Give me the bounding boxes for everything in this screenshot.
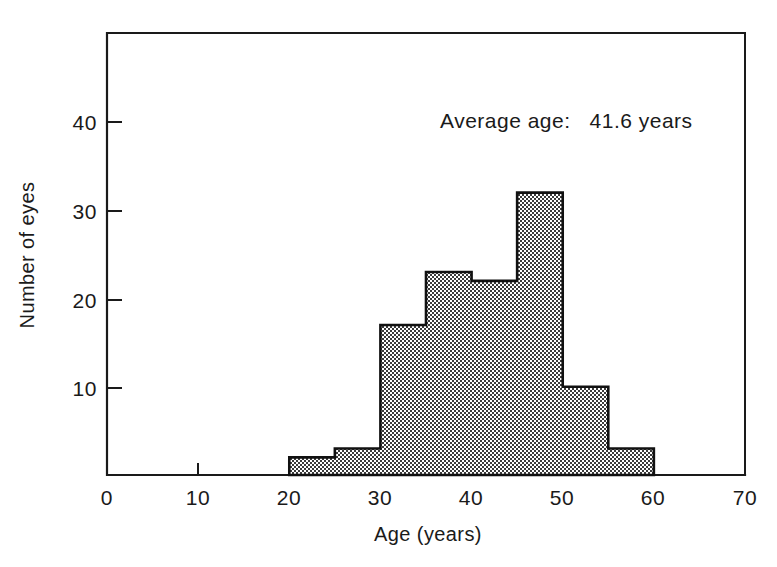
histogram-bars: [289, 193, 654, 475]
x-axis-title: Age (years): [374, 523, 482, 545]
y-tick-label-30: 30: [72, 200, 97, 223]
x-tick-label-50: 50: [550, 486, 575, 509]
histogram-series: [289, 193, 654, 475]
x-tick-label-20: 20: [277, 486, 302, 509]
x-tick-label-10: 10: [186, 486, 211, 509]
y-tick-label-20: 20: [72, 289, 97, 312]
x-tick-label-0: 0: [101, 486, 113, 509]
average-age-annotation: Average age: 41.6 years: [440, 109, 693, 132]
x-tick-label-70: 70: [733, 486, 758, 509]
y-axis-title: Number of eyes: [16, 182, 38, 329]
y-axis-tick-labels: 40 30 20 10: [72, 111, 97, 400]
histogram-figure: 40 30 20 10 Number of eyes 0 10 20 30 40…: [0, 0, 777, 567]
y-axis-ticks: [107, 122, 122, 388]
y-tick-label-10: 10: [72, 377, 97, 400]
x-axis-tick-labels: 0 10 20 30 40 50 60 70: [101, 486, 757, 509]
x-tick-label-40: 40: [459, 486, 484, 509]
x-tick-label-60: 60: [641, 486, 666, 509]
x-tick-label-30: 30: [368, 486, 393, 509]
y-tick-label-40: 40: [72, 111, 97, 134]
chart-canvas: 40 30 20 10 Number of eyes 0 10 20 30 40…: [0, 0, 777, 567]
